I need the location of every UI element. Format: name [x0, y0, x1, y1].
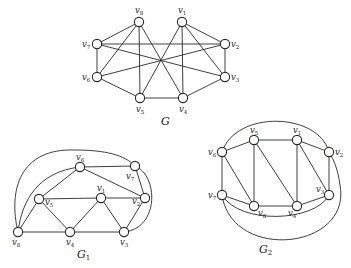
- vertex-v2: [324, 147, 333, 156]
- vertex-label-v1: v1: [178, 5, 186, 16]
- vertex-label-v8: v8: [135, 5, 144, 16]
- vertex-v4: [292, 201, 301, 210]
- vertex-v2: [220, 39, 229, 48]
- graph-figure: v1v2v3v4v5v6v7v8Gv1v2v3v4v5v6v7v8G1v1v2v…: [0, 0, 351, 268]
- vertex-v1: [96, 193, 105, 202]
- vertex-label-v8: v8: [12, 237, 21, 248]
- edge-v1-v4: [182, 22, 183, 98]
- vertex-v3: [220, 72, 229, 81]
- edge-v1-v3: [101, 198, 124, 232]
- graph-caption-g2: G2: [259, 243, 272, 257]
- vertex-v4: [65, 227, 74, 236]
- edge-v5-v4: [254, 140, 297, 206]
- graph-g: v1v2v3v4v5v6v7v8G: [82, 5, 240, 128]
- edge-v1-v4: [70, 198, 101, 232]
- edge-v1-v2: [182, 22, 225, 44]
- vertex-v7: [217, 190, 226, 199]
- vertex-v3: [119, 227, 128, 236]
- vertex-v3: [324, 190, 333, 199]
- vertex-v5: [249, 135, 258, 144]
- edge-v6-v8: [222, 152, 254, 206]
- vertex-label-v6: v6: [208, 147, 217, 158]
- vertex-label-v3: v3: [231, 72, 240, 83]
- edge-v8-v5: [139, 22, 140, 98]
- vertex-v5: [34, 194, 43, 203]
- vertex-label-v1: v1: [293, 125, 301, 136]
- edge-v5-v4: [39, 199, 70, 232]
- vertex-v6: [92, 72, 101, 81]
- vertex-v6: [75, 162, 84, 171]
- vertex-v2: [140, 193, 149, 202]
- vertex-label-v7: v7: [208, 190, 217, 201]
- edge-v4-v3: [183, 77, 225, 98]
- arc-edge-v6-v2: [222, 121, 329, 152]
- edge-v1-v5: [140, 22, 182, 98]
- vertex-label-v4: v4: [179, 104, 188, 115]
- vertex-v1: [292, 135, 301, 144]
- vertex-label-v5: v5: [250, 125, 259, 136]
- vertex-label-v3: v3: [120, 237, 129, 248]
- vertex-v7: [130, 161, 139, 170]
- vertex-label-v6: v6: [76, 152, 85, 163]
- vertex-v8: [13, 227, 22, 236]
- vertex-label-v1: v1: [97, 183, 105, 194]
- vertex-label-v2: v2: [231, 39, 239, 50]
- vertex-label-v6: v6: [82, 72, 91, 83]
- vertex-label-v7: v7: [126, 171, 135, 182]
- vertex-v7: [92, 39, 101, 48]
- graph-caption-g: G: [161, 115, 170, 128]
- vertex-v1: [177, 17, 186, 26]
- vertex-v6: [217, 147, 226, 156]
- edge-v6-v2: [80, 167, 145, 198]
- edge-v6-v7: [80, 166, 135, 167]
- graph-caption-g1: G1: [77, 248, 90, 262]
- vertex-v8: [134, 17, 143, 26]
- graph-g1: v1v2v3v4v5v6v7v8G1: [12, 150, 152, 262]
- edge-v8-v7: [97, 22, 139, 44]
- vertex-label-v7: v7: [82, 39, 91, 50]
- vertex-v4: [178, 93, 187, 102]
- graph-g2: v1v2v3v4v5v6v7v8G2: [208, 121, 343, 257]
- arc-edge-v7-v2: [222, 152, 341, 240]
- vertex-label-v8: v8: [258, 208, 267, 219]
- vertex-label-v4: v4: [66, 237, 75, 248]
- vertex-label-v5: v5: [136, 104, 145, 115]
- edge-v6-v5: [97, 77, 140, 98]
- vertex-label-v2: v2: [335, 147, 343, 158]
- edge-v1-v3: [297, 140, 329, 195]
- vertex-v5: [135, 93, 144, 102]
